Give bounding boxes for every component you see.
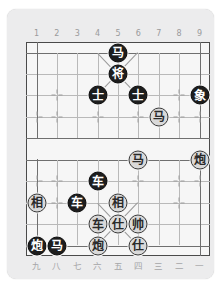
red-general[interactable]: 帅 <box>129 215 148 234</box>
star-point <box>194 176 205 187</box>
star-point <box>31 111 42 122</box>
red-advisor[interactable]: 仕 <box>109 215 128 234</box>
file-label: 四 <box>131 259 145 273</box>
star-point <box>174 90 185 101</box>
red-horse[interactable]: 马 <box>149 107 168 126</box>
file-label: 9 <box>193 27 207 41</box>
star-point <box>31 176 42 187</box>
red-elephant[interactable]: 相 <box>27 193 46 212</box>
file-labels-bottom: 九八七六五四三二一 <box>21 259 214 273</box>
star-point <box>51 111 62 122</box>
black-advisor[interactable]: 士 <box>88 86 107 105</box>
file-labels-top: 123456789 <box>21 27 214 41</box>
red-chariot[interactable]: 车 <box>88 215 107 234</box>
red-cannon[interactable]: 炮 <box>190 150 209 169</box>
black-horse[interactable]: 马 <box>47 236 66 255</box>
black-elephant[interactable]: 象 <box>190 86 209 105</box>
star-point <box>174 197 185 208</box>
black-advisor[interactable]: 士 <box>129 86 148 105</box>
star-point <box>92 111 103 122</box>
red-cannon[interactable]: 炮 <box>88 236 107 255</box>
black-horse[interactable]: 马 <box>109 43 128 62</box>
star-point <box>51 90 62 101</box>
star-point <box>174 176 185 187</box>
xiangqi-board[interactable]: 马将士士象马马炮车相车相车仕帅炮马炮仕 <box>26 42 210 256</box>
black-cannon[interactable]: 炮 <box>27 236 46 255</box>
black-chariot[interactable]: 车 <box>88 172 107 191</box>
file-label: 三 <box>152 259 166 273</box>
black-general[interactable]: 将 <box>109 64 128 83</box>
star-point <box>51 197 62 208</box>
file-label: 6 <box>131 27 145 41</box>
grid-file-line <box>159 160 160 246</box>
file-label: 8 <box>172 27 186 41</box>
file-label: 七 <box>70 259 84 273</box>
black-chariot[interactable]: 车 <box>68 193 87 212</box>
red-advisor[interactable]: 仕 <box>129 236 148 255</box>
star-point <box>194 111 205 122</box>
star-point <box>133 111 144 122</box>
star-point <box>133 176 144 187</box>
star-point <box>51 176 62 187</box>
file-label: 5 <box>111 27 125 41</box>
file-label: 九 <box>30 259 44 273</box>
file-label: 1 <box>30 27 44 41</box>
file-label: 3 <box>70 27 84 41</box>
file-label: 4 <box>91 27 105 41</box>
river-band <box>27 139 209 158</box>
file-label: 2 <box>50 27 64 41</box>
star-point <box>174 111 185 122</box>
file-label: 二 <box>172 259 186 273</box>
red-horse[interactable]: 马 <box>129 150 148 169</box>
red-elephant[interactable]: 相 <box>109 193 128 212</box>
xiangqi-app: 123456789 马将士士象马马炮车相车相车仕帅炮马炮仕 九八七六五四三二一 <box>0 0 221 288</box>
file-label: 一 <box>193 259 207 273</box>
file-label: 五 <box>111 259 125 273</box>
file-label: 六 <box>91 259 105 273</box>
file-label: 八 <box>50 259 64 273</box>
file-label: 7 <box>152 27 166 41</box>
board-panel: 123456789 马将士士象马马炮车相车相车仕帅炮马炮仕 九八七六五四三二一 <box>7 9 214 279</box>
grid-file-line <box>77 53 78 139</box>
